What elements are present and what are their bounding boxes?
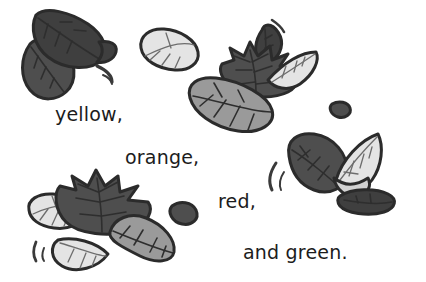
caption-red: red,: [218, 192, 256, 211]
mid-gray-pointed-leaf: [110, 216, 174, 261]
motion-mark-right-1: [270, 163, 276, 190]
dark-crescent-fragment-center: [170, 203, 197, 225]
motion-mark-bottom-left-1: [34, 242, 36, 261]
caption-orange: orange,: [125, 148, 199, 167]
leaf-group-top-right: [189, 20, 317, 132]
caption-and-green: and green.: [243, 243, 348, 262]
dark-pebble-fragment-right: [330, 102, 350, 118]
leaf-group-bottom-left: [29, 170, 174, 270]
motion-mark-bottom-left-2: [43, 248, 45, 261]
illustration-page: .ol { stroke:#2b2b2b; stroke-width:3; st…: [0, 0, 426, 282]
dark-flat-leaf: [338, 190, 395, 215]
leaf-group-right: [270, 134, 394, 215]
motion-mark-right-2: [280, 172, 284, 190]
falling-leaves-illustration: .ol { stroke:#2b2b2b; stroke-width:3; st…: [0, 0, 426, 282]
caption-yellow: yellow,: [55, 105, 123, 124]
light-crescent-leaf: [52, 239, 108, 270]
leaf-group-top-left: [23, 11, 117, 99]
light-oval-leaf: [141, 29, 198, 70]
